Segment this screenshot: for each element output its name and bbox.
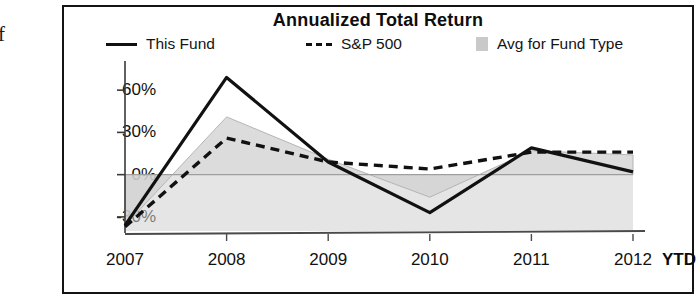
solid-line-swatch-icon (106, 43, 137, 46)
legend-item-sp500: S&P 500 (306, 33, 402, 55)
x-tick-label: 2011 (513, 250, 550, 270)
legend-label-this-fund: This Fund (146, 35, 215, 53)
legend-item-avg-fund-type: Avg for Fund Type (476, 33, 623, 55)
x-tick-label: 2007 (106, 250, 144, 270)
x-tick-label: 2008 (208, 250, 246, 270)
legend-label-avg-fund-type: Avg for Fund Type (497, 35, 623, 53)
x-axis-labels: 200720082009201020112012 (97, 250, 667, 276)
x-tick-label: 2009 (309, 250, 347, 270)
plot-area (97, 59, 657, 245)
x-tick-label: 2010 (411, 250, 449, 270)
legend-item-this-fund: This Fund (106, 33, 215, 55)
dashed-line-swatch-icon (306, 43, 332, 46)
legend-label-sp500: S&P 500 (341, 35, 402, 53)
chart-frame: Annualized Total Return This Fund S&P 50… (62, 5, 694, 294)
chart-plot-svg (97, 59, 657, 245)
gray-square-swatch-icon (476, 37, 488, 51)
ytd-annotation: YTD (662, 250, 696, 270)
chart-legend: This Fund S&P 500 Avg for Fund Type (64, 33, 692, 55)
x-tick-label: 2012 (614, 250, 652, 270)
chart-title: Annualized Total Return (64, 10, 692, 31)
clipped-edge-glyph: f (0, 22, 5, 47)
